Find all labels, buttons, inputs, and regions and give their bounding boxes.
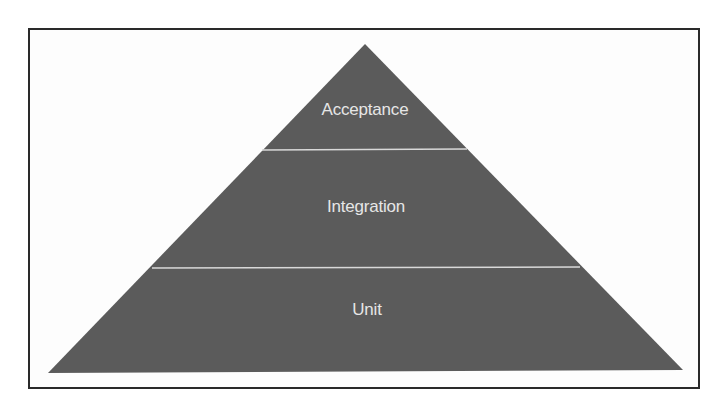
level-acceptance-label: Acceptance [322, 100, 409, 120]
level-unit-label: Unit [352, 300, 381, 320]
level-integration-label: Integration [327, 197, 405, 217]
divider-acceptance-integration [262, 149, 467, 150]
divider-integration-unit [152, 267, 580, 268]
